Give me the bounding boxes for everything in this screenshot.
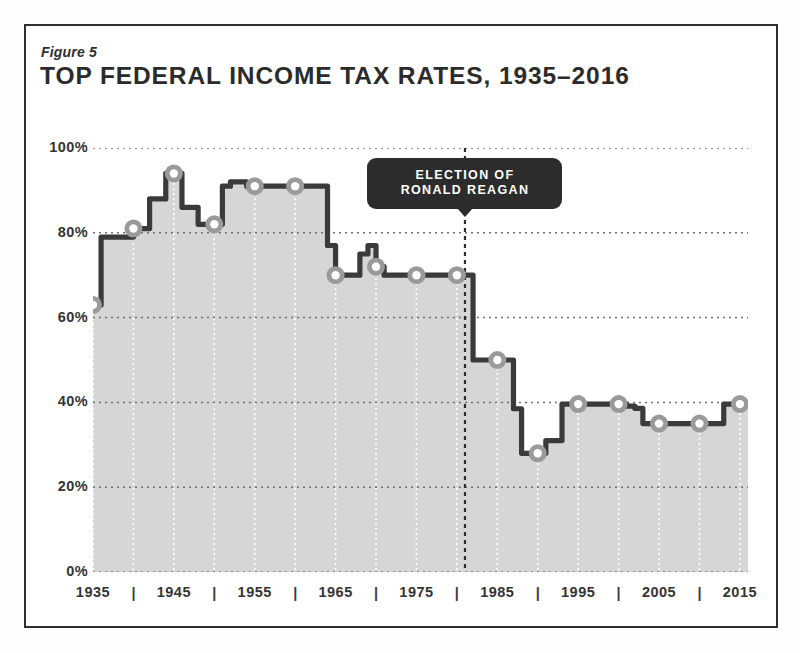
data-point-marker <box>372 263 380 271</box>
data-point-marker <box>453 271 461 279</box>
callout-line-1: ELECTION OF <box>373 168 556 183</box>
data-point-marker <box>129 224 137 232</box>
y-tick-label: 0% <box>32 563 88 579</box>
data-point-marker <box>170 169 178 177</box>
data-point-marker <box>251 182 259 190</box>
y-axis: 0%20%40%60%80%100% <box>26 0 88 653</box>
data-point-marker <box>534 449 542 457</box>
data-point-marker <box>695 419 703 427</box>
x-tick-label: 1965 <box>318 584 352 600</box>
chart-title: TOP FEDERAL INCOME TAX RATES, 1935–2016 <box>40 62 630 90</box>
data-point-marker <box>210 220 218 228</box>
y-tick-label: 80% <box>32 224 88 240</box>
data-point-marker <box>291 182 299 190</box>
x-tick-label: 2015 <box>723 584 757 600</box>
x-tick-divider: | <box>697 585 701 601</box>
plot-area <box>93 148 748 572</box>
data-point-marker <box>331 271 339 279</box>
data-point-marker <box>574 400 582 408</box>
area-fill <box>93 173 748 572</box>
data-point-marker <box>736 400 744 408</box>
y-tick-label: 40% <box>32 393 88 409</box>
y-tick-label: 100% <box>32 139 88 155</box>
x-tick-divider: | <box>131 585 135 601</box>
x-tick-label: 2005 <box>642 584 676 600</box>
callout-pointer-icon <box>457 208 473 217</box>
figure-root: Figure 5 TOP FEDERAL INCOME TAX RATES, 1… <box>0 0 800 653</box>
line-chart-svg <box>93 148 748 572</box>
data-point-marker <box>493 356 501 364</box>
x-tick-divider: | <box>536 585 540 601</box>
data-point-marker <box>614 400 622 408</box>
x-tick-divider: | <box>455 585 459 601</box>
x-tick-label: 1975 <box>399 584 433 600</box>
x-tick-divider: | <box>293 585 297 601</box>
x-axis: 1935|1945|1955|1965|1975|1985|1995|2005|… <box>93 584 748 608</box>
x-tick-divider: | <box>617 585 621 601</box>
callout-line-2: RONALD REAGAN <box>373 183 556 198</box>
y-tick-label: 60% <box>32 309 88 325</box>
x-tick-label: 1935 <box>76 584 110 600</box>
x-tick-label: 1995 <box>561 584 595 600</box>
y-tick-label: 20% <box>32 478 88 494</box>
x-tick-divider: | <box>374 585 378 601</box>
x-tick-label: 1985 <box>480 584 514 600</box>
x-tick-divider: | <box>212 585 216 601</box>
data-point-marker <box>655 419 663 427</box>
x-tick-label: 1955 <box>238 584 272 600</box>
data-point-marker <box>412 271 420 279</box>
x-tick-label: 1945 <box>157 584 191 600</box>
plot-background-group <box>93 173 748 572</box>
reagan-election-callout: ELECTION OF RONALD REAGAN <box>367 158 562 209</box>
